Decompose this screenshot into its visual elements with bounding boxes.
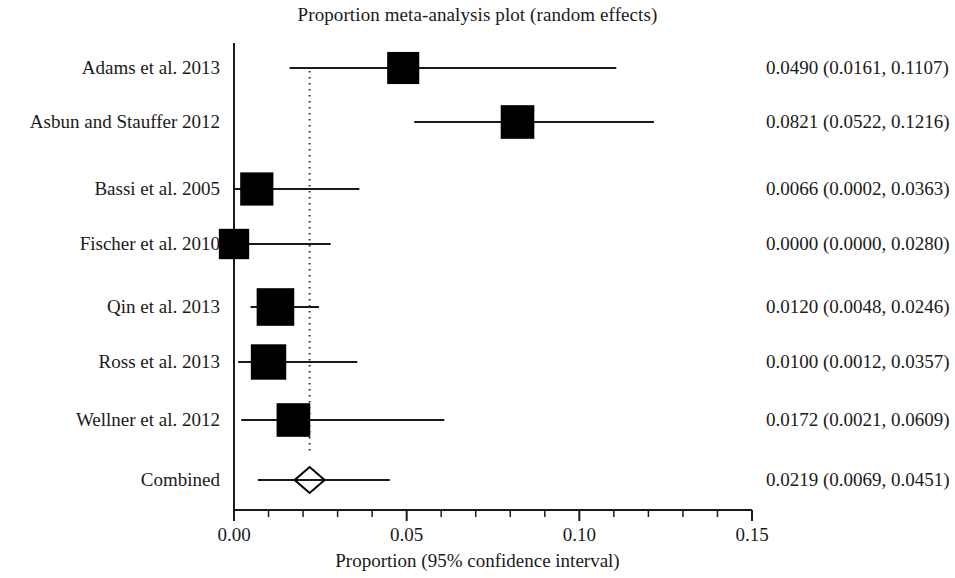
- study-label: Bassi et al. 2005: [94, 178, 220, 200]
- study-label: Fischer et al. 2010: [80, 233, 220, 255]
- effect-statistic-label: 0.0066 (0.0002, 0.0363): [766, 178, 950, 200]
- effect-statistic-label: 0.0172 (0.0021, 0.0609): [766, 409, 950, 431]
- effect-size-square-marker: [251, 344, 286, 379]
- effect-statistic-label: 0.0821 (0.0522, 0.1216): [766, 111, 950, 133]
- effect-size-square-marker: [219, 229, 249, 259]
- x-axis-title: Proportion (95% confidence interval): [0, 550, 955, 572]
- effect-statistic-label: 0.0000 (0.0000, 0.0280): [766, 233, 950, 255]
- effect-size-square-marker: [387, 52, 419, 84]
- effect-size-square-marker: [277, 403, 311, 437]
- x-axis-tick-label: 0.00: [217, 524, 250, 546]
- effect-statistic-label: 0.0219 (0.0069, 0.0451): [766, 469, 950, 491]
- study-label: Qin et al. 2013: [107, 296, 220, 318]
- effect-statistic-label: 0.0100 (0.0012, 0.0357): [766, 351, 950, 373]
- effect-statistic-label: 0.0490 (0.0161, 0.1107): [766, 57, 949, 79]
- x-axis-tick-label: 0.15: [735, 524, 768, 546]
- effect-size-square-marker: [257, 288, 295, 326]
- study-label: Ross et al. 2013: [99, 351, 220, 373]
- x-axis-tick-label: 0.05: [390, 524, 423, 546]
- x-axis-tick-label: 0.10: [563, 524, 596, 546]
- study-label: Wellner et al. 2012: [76, 409, 220, 431]
- effect-statistic-label: 0.0120 (0.0048, 0.0246): [766, 296, 950, 318]
- study-label: Adams et al. 2013: [82, 57, 220, 79]
- forest-plot-figure: Proportion meta-analysis plot (random ef…: [0, 0, 955, 578]
- study-label: Asbun and Stauffer 2012: [30, 111, 220, 133]
- study-label: Combined: [141, 469, 220, 491]
- plot-canvas: [0, 0, 955, 578]
- effect-size-square-marker: [240, 172, 273, 205]
- effect-size-square-marker: [501, 105, 535, 139]
